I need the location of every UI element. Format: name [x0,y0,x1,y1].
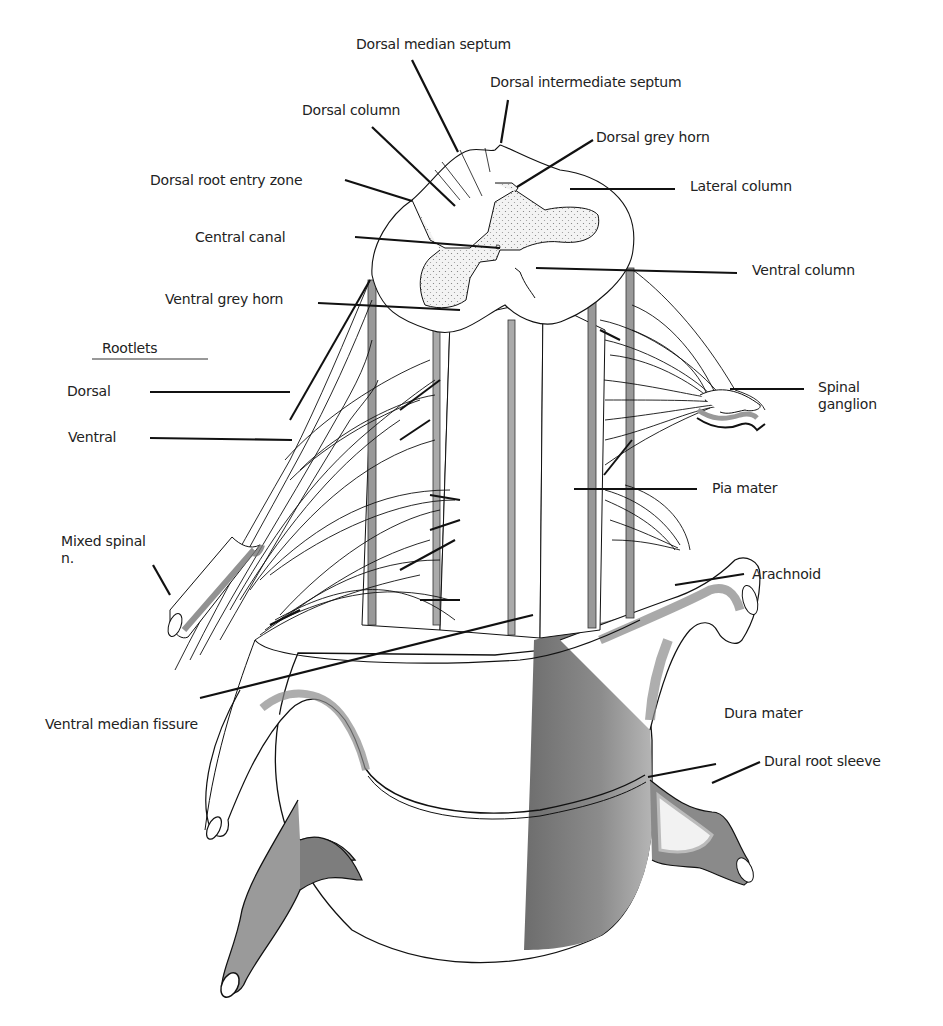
spinal-ganglion [697,390,765,430]
label-mixed-spinal-line1: Mixed spinal [61,533,146,550]
label-mixed-spinal-line2: n. [61,550,74,567]
label-dorsal-intermediate-septum: Dorsal intermediate septum [490,74,681,91]
label-dura-mater: Dura mater [724,705,803,722]
label-arachnoid: Arachnoid [752,566,821,583]
label-rootlets-dorsal: Dorsal [67,383,111,400]
rootlets-right-dark [600,330,718,475]
label-dorsal-column: Dorsal column [302,102,400,119]
label-spinal-ganglion-line2: ganglion [818,396,877,413]
label-pia-mater: Pia mater [712,480,777,497]
spinal-cord-diagram: Dorsal median septum Dorsal intermediate… [0,0,943,1026]
label-lateral-column: Lateral column [690,178,792,195]
spinal-cord-column [362,268,634,638]
label-rootlets-heading: Rootlets [102,340,157,357]
label-central-canal: Central canal [195,229,285,246]
label-dorsal-root-entry-zone: Dorsal root entry zone [150,172,302,189]
label-spinal-ganglion-line1: Spinal [818,379,860,396]
diagram-artwork [0,0,943,1026]
label-ventral-median-fissure: Ventral median fissure [45,716,198,733]
label-ventral-grey-horn: Ventral grey horn [165,291,283,308]
label-dural-root-sleeve: Dural root sleeve [764,753,881,770]
label-rootlets-ventral: Ventral [68,429,116,446]
label-dorsal-grey-horn: Dorsal grey horn [596,129,710,146]
label-ventral-column: Ventral column [752,262,855,279]
label-dorsal-median-septum: Dorsal median septum [356,36,511,53]
